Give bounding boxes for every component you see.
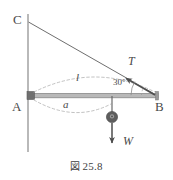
- tension-arrow: [126, 78, 155, 95]
- label-cable-angle: 30°: [113, 78, 126, 87]
- pivot-block: [27, 92, 35, 100]
- label-beam-length: l: [76, 72, 79, 83]
- weight-center-dot: [111, 116, 113, 118]
- beam-cable-diagram: [0, 0, 173, 180]
- label-point-b: B: [155, 100, 164, 113]
- figure-caption-number: 25.8: [82, 160, 102, 172]
- label-weight-distance: a: [63, 99, 69, 110]
- label-point-c: C: [13, 13, 22, 26]
- figure-caption: 図25.8: [0, 158, 173, 173]
- label-weight-force: W: [123, 135, 133, 147]
- figure-caption-mark: 図: [70, 161, 80, 172]
- label-point-a: A: [12, 100, 21, 113]
- label-tension-force: T: [128, 55, 135, 67]
- physics-figure: C A B T W l a 30° 図25.8: [0, 0, 173, 180]
- distance-arc-a: [34, 100, 111, 113]
- beam: [30, 93, 158, 97]
